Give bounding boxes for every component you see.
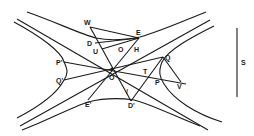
label-O-center: O	[109, 74, 115, 81]
label-T: T	[143, 68, 148, 75]
label-Q: Q	[165, 54, 171, 62]
label-H: H	[134, 46, 139, 53]
label-U: U	[93, 48, 98, 55]
label-E: E	[136, 29, 141, 36]
conjugate-lower-branch	[22, 99, 200, 130]
label-S: S	[241, 59, 246, 66]
label-Q-prime: Q'	[56, 77, 63, 85]
line-W-E	[90, 27, 139, 38]
label-P: P	[155, 79, 160, 86]
conjugate-upper-branch	[27, 12, 206, 40]
label-D-prime: D'	[128, 102, 135, 109]
center-point-O	[110, 67, 113, 70]
label-V: V	[177, 83, 182, 90]
hyperbola-diagram: W E D U O H P' Q' O T Q P V E' D' / S	[0, 0, 254, 136]
label-D: D	[87, 40, 92, 47]
label-E-prime: E'	[85, 101, 92, 108]
label-O-small: O	[118, 46, 124, 53]
label-slash: /	[126, 88, 128, 95]
label-P-prime: P'	[56, 59, 63, 66]
label-W: W	[84, 19, 91, 26]
